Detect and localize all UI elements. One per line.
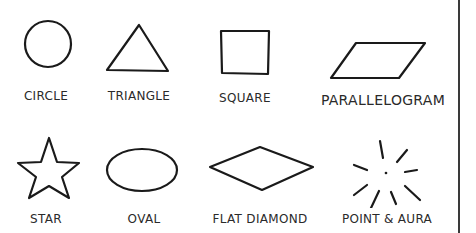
circle-label: CIRCLE (24, 89, 68, 103)
square-icon (216, 26, 272, 78)
oval-icon (102, 144, 184, 196)
vertical-divider (458, 0, 460, 233)
triangle-label: TRIANGLE (108, 89, 170, 103)
star-label: STAR (30, 212, 62, 226)
flat-diamond-label: FLAT DIAMOND (213, 212, 308, 226)
triangle-icon (102, 20, 174, 76)
oval-label: OVAL (128, 212, 161, 226)
parallelogram-label: PARALLELOGRAM (321, 92, 445, 108)
square-label: SQUARE (219, 91, 271, 105)
star-icon (14, 134, 84, 200)
point-aura-label: POINT & AURA (342, 212, 432, 226)
point-aura-icon (345, 128, 425, 208)
parallelogram-icon (326, 38, 430, 84)
flat-diamond-icon (205, 142, 321, 194)
circle-icon (20, 18, 80, 70)
